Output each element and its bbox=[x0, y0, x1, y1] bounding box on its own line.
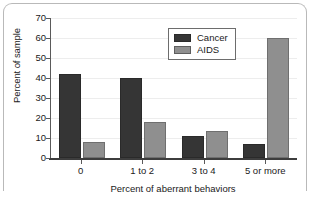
legend-label: Cancer bbox=[197, 33, 228, 43]
bar-aids-3-to-4 bbox=[206, 131, 228, 158]
legend-swatch-cancer bbox=[174, 34, 191, 42]
legend-item-aids: AIDS bbox=[174, 44, 228, 56]
y-axis-tick-label: 0 bbox=[24, 153, 46, 163]
bar-chart-figure: Percent of sample 010203040506070 Percen… bbox=[0, 0, 313, 203]
y-axis-tick-mark bbox=[46, 158, 50, 159]
y-axis-tick-label: 20 bbox=[24, 113, 46, 123]
y-axis-tick-label: 70 bbox=[24, 13, 46, 23]
x-axis-tick-label: 3 to 4 bbox=[192, 165, 216, 176]
x-axis-tick-mark bbox=[81, 160, 82, 164]
x-axis-tick-label: 1 to 2 bbox=[130, 165, 154, 176]
y-axis-tick-mark bbox=[46, 38, 50, 39]
x-axis-tick-mark bbox=[265, 160, 266, 164]
bar-group bbox=[243, 18, 289, 158]
bar-cancer-3-to-4 bbox=[182, 136, 204, 158]
x-axis-title: Percent of aberrant behaviors bbox=[50, 183, 296, 194]
x-axis-tick-label: 0 bbox=[78, 165, 83, 176]
y-axis-tick-mark bbox=[46, 18, 50, 19]
chart-legend: CancerAIDS bbox=[168, 28, 236, 60]
y-axis-tick-mark bbox=[46, 118, 50, 119]
bar-cancer-0 bbox=[59, 74, 81, 158]
y-axis-tick-label: 30 bbox=[24, 93, 46, 103]
y-axis-tick-label: 60 bbox=[24, 33, 46, 43]
y-axis-tick-labels: 010203040506070 bbox=[24, 18, 46, 158]
y-axis-title: Percent of sample bbox=[11, 6, 22, 126]
y-axis-tick-label: 50 bbox=[24, 53, 46, 63]
bar-aids-1-to-2 bbox=[144, 122, 166, 158]
legend-item-cancer: Cancer bbox=[174, 32, 228, 44]
x-axis-tick-mark bbox=[142, 160, 143, 164]
legend-label: AIDS bbox=[197, 45, 219, 55]
bar-cancer-5-or-more bbox=[243, 144, 265, 158]
y-axis-tick-mark bbox=[46, 78, 50, 79]
y-axis-tick-mark bbox=[46, 138, 50, 139]
legend-swatch-aids bbox=[174, 46, 191, 54]
x-axis-line bbox=[49, 158, 297, 160]
bar-group bbox=[59, 18, 105, 158]
x-axis-tick-mark bbox=[204, 160, 205, 164]
y-axis-tick-label: 10 bbox=[24, 133, 46, 143]
bar-group bbox=[120, 18, 166, 158]
y-axis-tick-label: 40 bbox=[24, 73, 46, 83]
bar-cancer-1-to-2 bbox=[120, 78, 142, 158]
x-axis-tick-label: 5 or more bbox=[245, 165, 286, 176]
y-axis-tick-mark bbox=[46, 98, 50, 99]
bar-aids-0 bbox=[83, 142, 105, 158]
y-axis-tick-mark bbox=[46, 58, 50, 59]
bar-aids-5-or-more bbox=[267, 38, 289, 158]
